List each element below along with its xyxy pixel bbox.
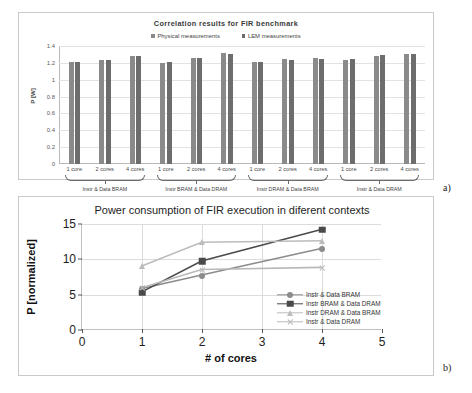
bar bbox=[282, 59, 287, 164]
bar bbox=[313, 58, 318, 164]
bar-group-label: Instr DRAM & Data BRAM bbox=[257, 186, 319, 192]
legend-marker-icon bbox=[277, 299, 303, 308]
bar bbox=[404, 54, 409, 164]
bar bbox=[75, 62, 80, 164]
x-axis-tick-label: 2 bbox=[199, 335, 206, 349]
bar-group bbox=[160, 46, 172, 164]
bar bbox=[289, 60, 294, 165]
x-axis-tick-label: 2 cores bbox=[187, 166, 205, 172]
bar-group bbox=[99, 46, 111, 164]
chart-panel-a: Correlation results for FIR benchmark Ph… bbox=[18, 12, 434, 180]
bar-group bbox=[129, 46, 141, 164]
bar bbox=[136, 56, 141, 164]
bar-group bbox=[282, 46, 294, 164]
bar bbox=[191, 58, 196, 164]
x-axis-tick-label: 4 cores bbox=[218, 166, 236, 172]
data-point-marker bbox=[319, 264, 326, 271]
x-axis-tick-label: 4 cores bbox=[126, 166, 144, 172]
x-axis-tick-label: 1 core bbox=[249, 166, 265, 172]
chart-b-x-axis-label: # of cores bbox=[81, 352, 381, 364]
x-axis-tick-label: 2 cores bbox=[279, 166, 297, 172]
bar-group-label: Instr BRAM & Data DRAM bbox=[165, 186, 227, 192]
gridline bbox=[59, 97, 425, 98]
bar bbox=[252, 62, 257, 164]
bar bbox=[319, 59, 324, 164]
y-axis-tick-label: 0 bbox=[69, 323, 76, 337]
bar-group-label: Instr & Data BRAM bbox=[82, 186, 127, 192]
data-point-marker bbox=[319, 246, 325, 252]
bar-group bbox=[343, 46, 355, 164]
y-axis-tick-label: 15 bbox=[63, 217, 76, 231]
x-axis-tick-mark bbox=[82, 329, 83, 333]
bar bbox=[374, 56, 379, 164]
bar bbox=[160, 63, 165, 164]
group-brace-tick bbox=[379, 181, 380, 184]
figure-caption-a: a) bbox=[443, 182, 451, 193]
x-axis-tick-label: 2 cores bbox=[370, 166, 388, 172]
chart-a-title: Correlation results for FIR benchmark bbox=[19, 19, 433, 28]
data-point-marker bbox=[319, 226, 326, 233]
legend-marker-icon bbox=[277, 317, 303, 326]
bar-group bbox=[221, 46, 233, 164]
legend-label: LEM measurements bbox=[248, 33, 301, 39]
bar bbox=[411, 54, 416, 164]
x-axis-tick-label: 1 core bbox=[66, 166, 82, 172]
figure-caption-b: b) bbox=[443, 362, 451, 373]
bar bbox=[106, 60, 111, 164]
x-axis-tick-label: 4 cores bbox=[401, 166, 419, 172]
y-axis-tick-label: 10 bbox=[63, 252, 76, 266]
bar bbox=[258, 62, 263, 164]
bar bbox=[221, 53, 226, 164]
legend-item-lem-measurements: LEM measurements bbox=[242, 33, 301, 39]
data-point-marker bbox=[199, 239, 205, 245]
x-axis-tick-label: 4 cores bbox=[309, 166, 327, 172]
chart-a-y-axis-label: P [W] bbox=[29, 88, 36, 104]
group-brace-tick bbox=[105, 181, 106, 184]
chart-a-x-axis bbox=[59, 163, 425, 164]
chart-b-y-axis-label: P [normalized] bbox=[25, 239, 37, 315]
bar-group bbox=[190, 46, 202, 164]
chart-a-legend: Physical measurements LEM measurements bbox=[19, 33, 433, 39]
bar bbox=[380, 55, 385, 164]
bar bbox=[350, 59, 355, 164]
legend-swatch-icon bbox=[242, 34, 246, 38]
x-axis-tick-mark bbox=[202, 329, 203, 333]
chart-b-legend: Instr & Data BRAMInstr BRAM & Data DRAMI… bbox=[277, 290, 381, 326]
group-brace bbox=[157, 175, 237, 181]
x-axis-tick-label: 1 bbox=[139, 335, 146, 349]
bar bbox=[130, 56, 135, 164]
legend-item: Instr BRAM & Data DRAM bbox=[277, 299, 381, 308]
gridline bbox=[59, 113, 425, 114]
gridline bbox=[59, 130, 425, 131]
data-point-marker bbox=[139, 285, 146, 292]
y-axis-tick-label: 1.2 bbox=[47, 60, 55, 66]
y-axis-tick-label: 0.4 bbox=[47, 127, 55, 133]
bar bbox=[167, 62, 172, 164]
bar bbox=[228, 54, 233, 164]
bar bbox=[197, 58, 202, 164]
x-axis-tick-label: 3 bbox=[259, 335, 266, 349]
bar bbox=[69, 62, 74, 164]
data-point-marker bbox=[199, 266, 206, 273]
y-axis-tick-label: 1 bbox=[52, 77, 55, 83]
x-axis-tick-mark bbox=[262, 329, 263, 333]
gridline bbox=[59, 147, 425, 148]
legend-label: Instr & Data BRAM bbox=[306, 291, 360, 298]
x-axis-tick-label: 1 core bbox=[158, 166, 174, 172]
legend-item: Instr & Data DRAM bbox=[277, 317, 381, 326]
y-axis-tick-label: 0.8 bbox=[47, 94, 55, 100]
group-brace bbox=[65, 175, 145, 181]
gridline bbox=[59, 63, 425, 64]
x-axis-tick-mark bbox=[382, 329, 383, 333]
y-axis-tick-label: 0.2 bbox=[47, 144, 55, 150]
group-brace-tick bbox=[288, 181, 289, 184]
legend-item: Instr DRAM & Data BRAM bbox=[277, 308, 381, 317]
bar-group bbox=[251, 46, 263, 164]
x-axis-tick-label: 0 bbox=[79, 335, 86, 349]
x-axis-tick-label: 1 core bbox=[341, 166, 357, 172]
data-point-marker bbox=[139, 263, 145, 269]
chart-b-title: Power consumption of FIR execution in di… bbox=[67, 204, 397, 216]
gridline bbox=[59, 46, 425, 47]
bar-group bbox=[312, 46, 324, 164]
bar-group-label: Instr & Data DRAM bbox=[357, 186, 402, 192]
